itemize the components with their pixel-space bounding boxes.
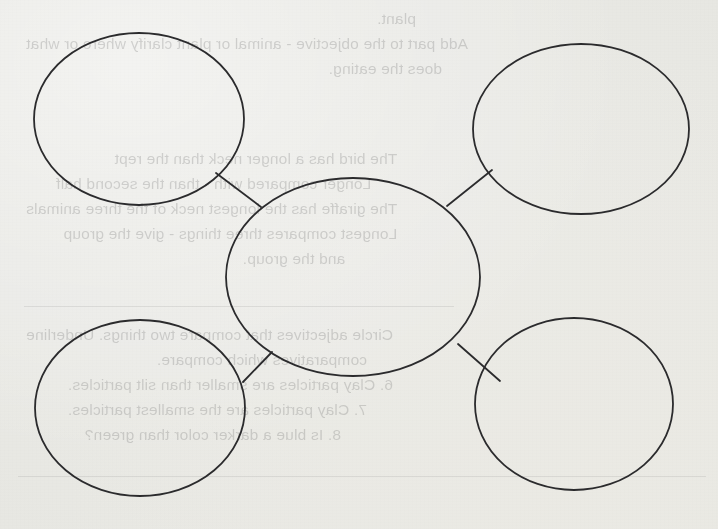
bubble-map-svg <box>0 0 718 529</box>
bubble-bottom-right[interactable] <box>475 318 673 490</box>
bubble-top-left[interactable] <box>34 33 244 205</box>
bubble-map-diagram <box>0 0 718 529</box>
connector-top-left-to-center <box>216 173 261 207</box>
scanned-page: plant. Add part to the objective - anima… <box>0 0 718 529</box>
node-group <box>34 33 689 496</box>
bubble-top-right[interactable] <box>473 44 689 214</box>
connector-bottom-right-to-center <box>458 344 500 381</box>
bubble-center[interactable] <box>226 178 480 376</box>
connector-top-right-to-center <box>447 170 492 206</box>
connector-group <box>216 170 500 382</box>
bubble-bottom-left[interactable] <box>35 320 245 496</box>
connector-bottom-left-to-center <box>243 352 272 382</box>
